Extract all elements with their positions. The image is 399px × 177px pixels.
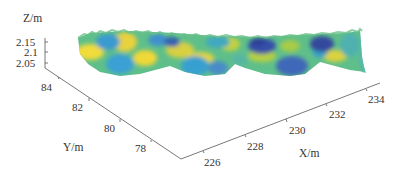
x-tick-label: 226 bbox=[204, 157, 221, 168]
z-tick-label: 2.05 bbox=[16, 58, 35, 69]
x-tick-label: 232 bbox=[329, 109, 346, 120]
z-axis-title: Z/m bbox=[23, 13, 42, 24]
x-axis-title: X/m bbox=[299, 148, 319, 159]
x-tick-label: 230 bbox=[289, 125, 306, 136]
plot-canvas bbox=[0, 0, 399, 177]
x-tick-label: 228 bbox=[247, 141, 264, 152]
x-tick-label: 234 bbox=[368, 94, 385, 105]
y-tick-label: 82 bbox=[72, 102, 83, 113]
y-axis-title: Y/m bbox=[63, 142, 83, 153]
y-tick-label: 84 bbox=[41, 82, 52, 93]
y-tick-label: 78 bbox=[135, 143, 146, 154]
surface-plot-figure: Z/m Y/m X/m 2.15 2.1 2.05 84 82 80 78 22… bbox=[0, 0, 399, 177]
x-axis-line bbox=[181, 83, 380, 159]
y-tick-label: 80 bbox=[104, 123, 115, 134]
